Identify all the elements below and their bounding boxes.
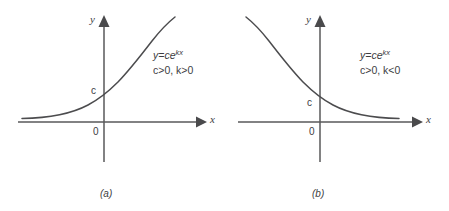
x-axis-arrow-icon-b [412, 117, 423, 128]
y-axis-arrow-icon-b [315, 15, 326, 27]
equation-annotation-b: y=cekx c>0, k<0 [360, 48, 400, 78]
equation-base-a: y=ce [153, 49, 175, 61]
y-intercept-label-b: c [307, 98, 312, 108]
panel-b: y x c 0 y=cekx c>0, k<0 (b) [224, 0, 449, 211]
panel-b-plot [224, 0, 449, 211]
equation-line-a: y=cekx [153, 48, 193, 63]
y-axis-label-b: y [306, 14, 311, 25]
caption-b: (b) [312, 188, 324, 199]
equation-base-b: y=ce [360, 49, 382, 61]
y-axis-label-a: y [90, 14, 95, 25]
panel-a: y x c 0 y=cekx c>0, k>0 (a) [0, 0, 225, 211]
equation-annotation-a: y=cekx c>0, k>0 [153, 48, 193, 78]
y-intercept-label-a: c [91, 86, 96, 96]
figure-root: y x c 0 y=cekx c>0, k>0 (a) y x c 0 y=ce… [0, 0, 449, 211]
x-axis-arrow-icon-a [196, 117, 207, 128]
condition-line-a: c>0, k>0 [153, 63, 193, 78]
caption-a: (a) [100, 188, 112, 199]
x-axis-label-b: x [426, 114, 431, 125]
equation-exponent-a: kx [175, 48, 183, 57]
panel-a-plot [0, 0, 225, 211]
x-axis-label-a: x [210, 114, 215, 125]
origin-label-a: 0 [93, 127, 99, 137]
equation-exponent-b: kx [382, 48, 390, 57]
y-axis-arrow-icon-a [99, 15, 110, 27]
equation-line-b: y=cekx [360, 48, 400, 63]
condition-line-b: c>0, k<0 [360, 63, 400, 78]
origin-label-b: 0 [309, 127, 315, 137]
